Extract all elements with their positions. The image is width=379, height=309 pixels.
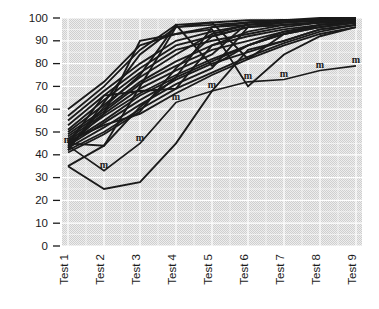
y-axis-labels: 0102030405060708090100: [29, 12, 48, 252]
x-tick-label: Test 3: [130, 254, 142, 285]
x-tick-label: Test 5: [202, 254, 214, 285]
y-axis-ticks: [53, 18, 60, 246]
y-tick-label: 80: [35, 57, 48, 69]
data-point-marker: m: [316, 59, 325, 70]
y-tick-label: 70: [35, 80, 48, 92]
data-point-marker: m: [352, 54, 361, 65]
x-tick-label: Test 7: [274, 254, 286, 285]
y-tick-label: 40: [35, 148, 48, 160]
y-tick-label: 50: [35, 126, 48, 138]
x-tick-label: Test 2: [94, 254, 106, 285]
y-tick-label: 30: [35, 171, 48, 183]
data-point-marker: m: [136, 132, 145, 143]
data-point-marker: m: [280, 68, 289, 79]
y-tick-label: 20: [35, 194, 48, 206]
x-axis-labels: Test 1Test 2Test 3Test 4Test 5Test 6Test…: [58, 253, 358, 284]
x-tick-label: Test 6: [238, 254, 250, 285]
line-chart: 0102030405060708090100 Test 1Test 2Test …: [0, 0, 379, 309]
y-tick-label: 100: [29, 12, 48, 24]
y-tick-label: 90: [35, 34, 48, 46]
data-point-marker: m: [100, 159, 109, 170]
data-point-marker: m: [172, 91, 181, 102]
x-tick-label: Test 4: [166, 253, 178, 284]
data-point-marker: m: [64, 134, 73, 145]
data-point-marker: m: [208, 79, 217, 90]
y-tick-label: 0: [42, 240, 48, 252]
y-tick-label: 10: [35, 217, 48, 229]
chart-figure: 0102030405060708090100 Test 1Test 2Test …: [0, 0, 379, 309]
y-tick-label: 60: [35, 103, 48, 115]
x-tick-label: Test 9: [346, 254, 358, 285]
data-point-marker: m: [244, 70, 253, 81]
x-tick-label: Test 1: [58, 254, 70, 285]
x-tick-label: Test 8: [310, 254, 322, 285]
